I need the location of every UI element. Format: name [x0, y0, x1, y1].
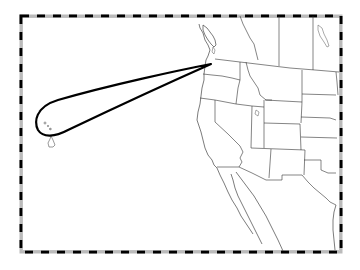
co-ks-border: [300, 124, 301, 150]
sd-ne-border: [301, 117, 336, 120]
ca-az-border: [239, 158, 242, 167]
route-loop: [36, 64, 211, 136]
id-nv-ut-border: [236, 104, 264, 107]
canada-us-border: [215, 59, 339, 72]
or-ca-nv-border: [200, 98, 236, 104]
or-id-border: [236, 80, 240, 104]
map-canvas: [0, 0, 360, 270]
wy-south-border: [264, 107, 300, 124]
bc-alberta-border: [240, 16, 258, 60]
mt-wy-border: [265, 100, 302, 102]
map-container: [0, 0, 360, 270]
ne-ks-border: [301, 137, 337, 138]
wa-or-border: [203, 74, 240, 80]
id-mt-border: [246, 62, 272, 100]
big-island: [48, 136, 55, 147]
four-corners-border: [251, 148, 305, 150]
eastern-edge-border: [336, 72, 338, 95]
hawaiian-islands: [39, 110, 55, 147]
nv-ut-border: [251, 106, 252, 148]
nm-tx-border: [304, 150, 305, 175]
great-salt-lake: [255, 110, 259, 116]
map-frame: [21, 16, 341, 252]
lake-winnipeg: [318, 25, 329, 47]
az-nm-border: [269, 149, 271, 178]
nd-sd-border: [302, 94, 336, 95]
ca-nv-border: [215, 100, 243, 158]
wy-sd-ne-border: [301, 102, 302, 123]
ok-tx-border: [304, 160, 336, 173]
